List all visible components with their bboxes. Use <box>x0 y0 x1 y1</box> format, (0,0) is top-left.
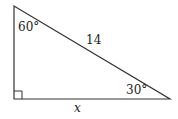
right-angle-marker <box>14 91 22 99</box>
base-label: x <box>74 102 81 114</box>
triangle-figure <box>0 0 178 119</box>
triangle-diagram: 60° 14 30° x <box>0 0 178 119</box>
angle-label-bottom-right: 30° <box>126 84 147 96</box>
hypotenuse-label: 14 <box>86 34 101 46</box>
angle-label-top: 60° <box>18 21 39 33</box>
